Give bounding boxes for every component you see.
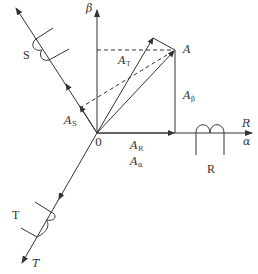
s-winding-coil — [33, 28, 69, 60]
vector-a-t-label: AT — [118, 55, 131, 70]
beta-axis-label: β — [86, 3, 92, 14]
vector-a-label: A — [183, 44, 191, 55]
vector-a-s — [80, 106, 97, 133]
diagram-lines — [0, 0, 258, 274]
r-winding-label: R — [207, 164, 215, 175]
t-winding-label: T — [12, 210, 19, 221]
alpha-axis-label: α — [243, 136, 250, 147]
origin-label: 0 — [95, 137, 102, 148]
space-vector-diagram: β R α T S R T 0 A AT AS Aβ AR Aα — [0, 0, 258, 274]
vector-a-s-label: AS — [64, 115, 77, 130]
vector-a-beta-label: Aβ — [183, 90, 195, 105]
t-axis-label: T — [32, 258, 39, 269]
r-winding-coil — [196, 125, 224, 155]
vector-a-r-label: AR — [130, 140, 143, 155]
s-winding-label: S — [23, 50, 30, 61]
r-axis-label: R — [242, 118, 250, 129]
vector-a-t-to-a — [153, 38, 175, 50]
vector-a-t — [97, 38, 153, 133]
t-winding-coil — [21, 202, 55, 237]
t-axis-arrow-mark — [59, 193, 62, 199]
vector-a — [97, 51, 174, 133]
vector-a-alpha-label: Aα — [130, 156, 143, 171]
